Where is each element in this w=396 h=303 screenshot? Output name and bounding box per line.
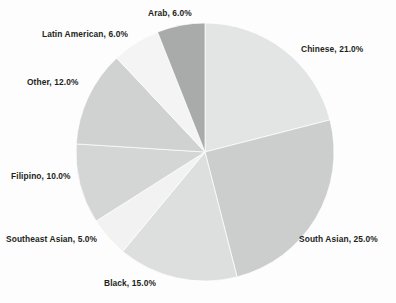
slice-label-southeast-asian: Southeast Asian, 5.0% [6, 234, 97, 245]
pie-chart-figure: Chinese, 21.0% South Asian, 25.0% Black,… [0, 0, 396, 303]
slice-label-chinese: Chinese, 21.0% [301, 44, 363, 55]
pie-slice-group [76, 23, 334, 281]
slice-label-black: Black, 15.0% [104, 278, 156, 289]
slice-label-filipino: Filipino, 10.0% [11, 171, 71, 182]
slice-label-arab: Arab, 6.0% [148, 8, 192, 19]
slice-label-south-asian: South Asian, 25.0% [299, 234, 378, 245]
slice-label-latin-american: Latin American, 6.0% [42, 29, 128, 40]
slice-label-other: Other, 12.0% [27, 77, 78, 88]
